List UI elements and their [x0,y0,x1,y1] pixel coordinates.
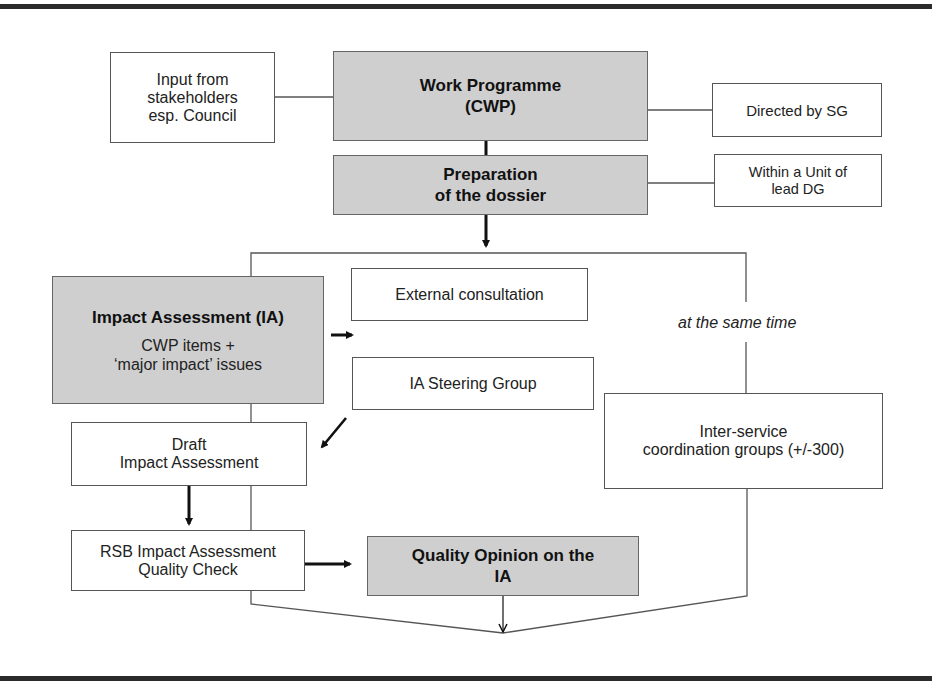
preparation-line-1: Preparation [443,164,537,185]
ia-steering-group-label: IA Steering Group [409,375,536,393]
work-programme-box: Work Programme (CWP) [333,51,648,141]
inter-service-box: Inter-service coordination groups (+/-30… [604,393,883,489]
external-consultation-label: External consultation [395,286,544,304]
directed-by-sg-label: Directed by SG [746,102,848,119]
stakeholders-box: Input from stakeholders esp. Council [110,52,275,143]
stakeholders-line-1: Input from [156,71,228,89]
work-programme-line-2: (CWP) [465,96,516,117]
draft-ia-line-1: Draft [172,436,207,454]
stakeholders-line-2: stakeholders [147,89,238,107]
impact-assessment-box: Impact Assessment (IA) CWP items + ‘majo… [52,276,324,404]
edge-steering-draft [322,418,346,447]
edge-rsb-merge [251,590,503,633]
impact-assessment-subtitle: CWP items + ‘major impact’ issues [114,336,262,374]
quality-opinion-line-2: IA [495,566,512,587]
draft-ia-box: Draft Impact Assessment [71,422,307,486]
rsb-check-line-2: Quality Check [138,561,238,579]
stakeholders-line-3: esp. Council [148,107,236,125]
quality-opinion-box: Quality Opinion on the IA [367,536,639,596]
external-consultation-box: External consultation [351,268,588,321]
work-programme-line-1: Work Programme [420,75,561,96]
preparation-box: Preparation of the dossier [333,155,648,215]
impact-assessment-title: Impact Assessment (IA) [92,307,284,328]
within-unit-line-1: Within a Unit of [749,164,847,181]
draft-ia-line-2: Impact Assessment [120,454,259,472]
impact-assessment-sub-1: CWP items + [114,336,262,355]
inter-service-line-1: Inter-service [699,423,787,441]
rsb-check-line-1: RSB Impact Assessment [100,543,276,561]
directed-by-sg-box: Directed by SG [712,83,882,137]
quality-opinion-line-1: Quality Opinion on the [412,545,594,566]
rsb-check-box: RSB Impact Assessment Quality Check [71,530,305,591]
inter-service-line-2: coordination groups (+/-300) [643,441,844,459]
parallel-annotation: at the same time [678,314,796,332]
preparation-line-2: of the dossier [435,185,546,206]
impact-assessment-sub-2: ‘major impact’ issues [114,355,262,374]
within-unit-line-2: lead DG [771,181,824,198]
ia-steering-group-box: IA Steering Group [352,357,594,410]
within-unit-box: Within a Unit of lead DG [714,154,882,207]
